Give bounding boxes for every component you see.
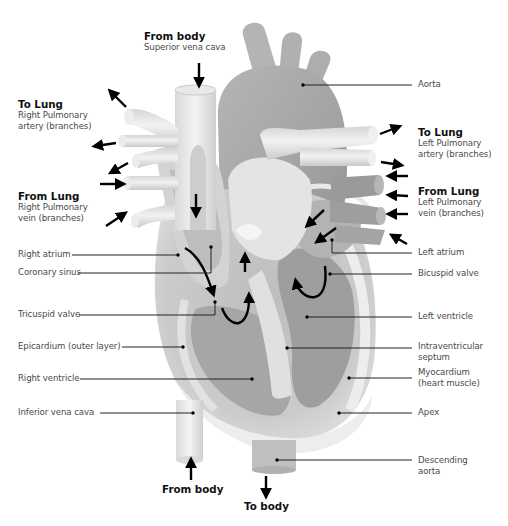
label-top-from-body: From body Superior vena cava bbox=[144, 30, 225, 53]
right-pulmonary-artery-label-2: artery (branches) bbox=[18, 121, 91, 132]
label-bottom-to-body: To body bbox=[244, 500, 289, 512]
from-lung-heading: From Lung bbox=[18, 190, 88, 202]
label-right-to-lung: To Lung Right Pulmonary artery (branches… bbox=[18, 98, 91, 132]
left-pulmonary-artery-label-2: artery (branches) bbox=[418, 149, 491, 160]
arrow-lpa-out-1 bbox=[380, 127, 398, 134]
label-myocardium-line-1: Myocardium bbox=[418, 367, 480, 378]
right-pulmonary-vein-label-2: vein (branches) bbox=[18, 213, 88, 224]
label-left-ventricle: Left ventricle bbox=[418, 311, 473, 322]
label-right-from-lung: From Lung Right Pulmonary vein (branches… bbox=[18, 190, 88, 224]
label-tricuspid-valve: Tricuspid valve bbox=[18, 309, 80, 320]
from-body-heading: From body bbox=[144, 30, 225, 42]
label-myocardium-line-2: (heart muscle) bbox=[418, 378, 480, 389]
label-left-atrium: Left atrium bbox=[418, 247, 464, 258]
arrow-lpv-in-2 bbox=[390, 195, 408, 196]
from-lung-heading: From Lung bbox=[418, 185, 484, 197]
left-pulmonary-vein-label: Left Pulmonary bbox=[418, 197, 484, 208]
label-descending-aorta: Descending aorta bbox=[418, 455, 468, 477]
right-pulmonary-artery-label: Right Pulmonary bbox=[18, 110, 91, 121]
label-left-to-lung: To Lung Left Pulmonary artery (branches) bbox=[418, 126, 491, 160]
label-left-from-lung: From Lung Left Pulmonary vein (branches) bbox=[418, 185, 484, 219]
label-myocardium: Myocardium (heart muscle) bbox=[418, 367, 480, 389]
arrow-lpa-out-2 bbox=[381, 162, 400, 165]
label-coronary-sinus: Coronary sinus bbox=[18, 267, 81, 278]
right-pulmonary-vein-label: Right Pulmonary bbox=[18, 202, 88, 213]
inferior-vena-cava bbox=[176, 400, 203, 464]
arrow-rpa-out-3 bbox=[112, 163, 128, 172]
label-epicardium: Epicardium (outer layer) bbox=[18, 341, 121, 352]
label-descending-aorta-line-1: Descending bbox=[418, 455, 468, 466]
label-apex: Apex bbox=[418, 407, 439, 418]
label-aorta: Aorta bbox=[418, 79, 441, 90]
to-lung-heading: To Lung bbox=[18, 98, 91, 110]
descending-aorta bbox=[252, 440, 296, 474]
to-lung-heading: To Lung bbox=[418, 126, 491, 138]
left-pulmonary-vein-label-2: vein (branches) bbox=[418, 208, 484, 219]
heart-diagram: From body Superior vena cava To Lung Rig… bbox=[0, 0, 508, 526]
arrow-lpv-in-4 bbox=[393, 236, 407, 244]
arrow-rpv-in-2 bbox=[106, 214, 124, 226]
label-right-atrium: Right atrium bbox=[18, 249, 71, 260]
label-septum-line-1: Intraventricular bbox=[418, 341, 483, 352]
left-pulmonary-artery-label: Left Pulmonary bbox=[418, 138, 491, 149]
label-septum: Intraventricular septum bbox=[418, 341, 483, 363]
label-right-ventricle: Right ventricle bbox=[18, 373, 79, 384]
label-bottom-from-body: From body bbox=[162, 483, 223, 495]
label-inferior-vena-cava: Inferior vena cava bbox=[18, 407, 94, 418]
label-descending-aorta-line-2: aorta bbox=[418, 466, 468, 477]
label-septum-line-2: septum bbox=[418, 352, 483, 363]
arrow-rpa-out-1 bbox=[111, 92, 126, 107]
superior-vena-cava-label: Superior vena cava bbox=[144, 42, 225, 53]
label-bicuspid-valve: Bicuspid valve bbox=[418, 268, 479, 279]
arrow-rpa-out-2 bbox=[96, 143, 116, 146]
